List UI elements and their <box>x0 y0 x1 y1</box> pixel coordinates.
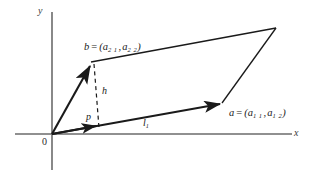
vector-b-equals: = <box>89 41 99 52</box>
vector-b-point-label: b=(a2 1,a2 2) <box>84 42 141 53</box>
vector-b-close-paren: ) <box>137 41 141 52</box>
x-axis-label: x <box>294 128 298 138</box>
height-h-label: h <box>102 86 107 96</box>
vector-b-arrow <box>52 66 90 134</box>
vector-a-equals: = <box>234 107 244 118</box>
vector-a-comp2-subscript: 1 2 <box>272 112 282 119</box>
figure-canvas <box>0 0 309 179</box>
vector-a-close-paren: ) <box>282 107 286 118</box>
y-axis-label: y <box>38 6 42 16</box>
origin-label: 0 <box>42 137 47 147</box>
vector-parallelogram-figure: y x 0 b=(a2 1,a2 2) a=(a1 1,a1 2) h p l1 <box>0 0 309 179</box>
height-h-dashed-line <box>94 64 99 128</box>
projection-p-arrow <box>52 126 96 134</box>
base-line-l1-label: l1 <box>143 118 149 128</box>
parallelogram-right-edge <box>222 28 276 103</box>
base-line-subscript: 1 <box>146 122 150 129</box>
vector-b-comp1-subscript: 2 1 <box>108 46 118 53</box>
vector-a-comp1-subscript: 1 1 <box>253 112 263 119</box>
vector-b-comp2-subscript: 2 2 <box>127 46 137 53</box>
vector-a-point-label: a=(a1 1,a1 2) <box>229 108 286 119</box>
projection-p-label: p <box>86 112 91 122</box>
